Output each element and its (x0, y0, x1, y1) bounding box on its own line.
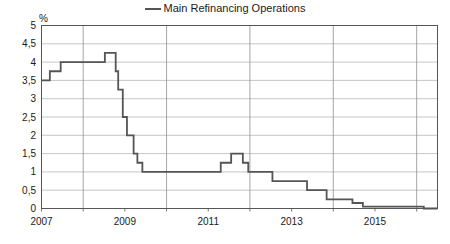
y-axis-tick-label: 2 (30, 130, 36, 141)
y-axis-tick-label: 2,5 (22, 112, 36, 123)
y-axis-tick-label: 4 (30, 57, 36, 68)
x-axis-tick-label: 2013 (280, 216, 303, 227)
x-axis-tick-label: 2007 (30, 216, 53, 227)
x-axis-tick-labels: 20072009201120132015 (30, 216, 386, 227)
chart-svg: 54,543,532,521,510,50 200720092011201320… (0, 0, 450, 244)
y-axis-tick-label: 4,5 (22, 38, 36, 49)
y-axis-tick-label: 5 (30, 20, 36, 31)
x-axis-tick-label: 2009 (114, 216, 137, 227)
y-axis-tick-label: 3,5 (22, 75, 36, 86)
y-axis-tick-label: 1 (30, 166, 36, 177)
y-axis-tick-label: 1,5 (22, 148, 36, 159)
y-axis-tick-label: 0,5 (22, 185, 36, 196)
y-axis-tick-label: 0 (30, 203, 36, 214)
y-axis-tick-label: 3 (30, 93, 36, 104)
chart-container: Main Refinancing Operations % 54,543,532… (0, 0, 450, 244)
x-axis-tick-label: 2015 (364, 216, 387, 227)
y-axis-tick-labels: 54,543,532,521,510,50 (22, 20, 36, 214)
x-axis-tick-label: 2011 (197, 216, 219, 227)
grid-lines (42, 26, 438, 209)
data-line-main-refinancing-operations (42, 53, 438, 209)
